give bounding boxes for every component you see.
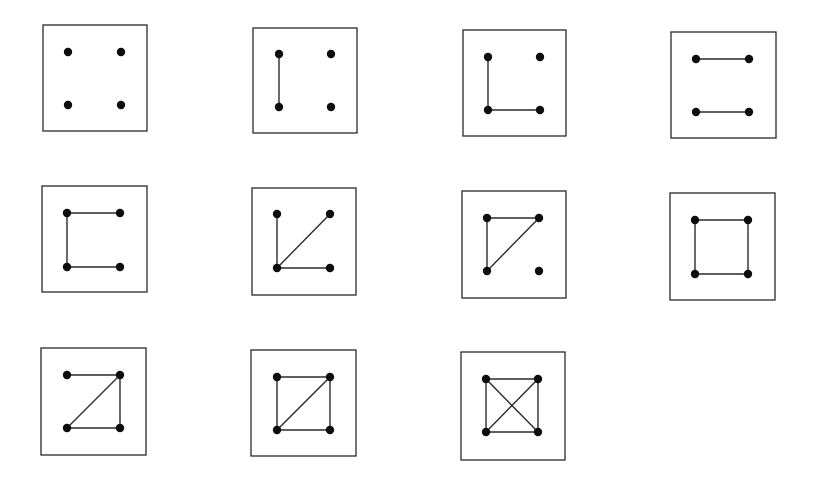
graph-vertex-bl <box>275 103 283 111</box>
graph-vertex-br <box>744 270 752 278</box>
graph-panel-6 <box>252 188 356 295</box>
graph-panel-10 <box>251 350 356 456</box>
graph-vertex-br <box>326 426 334 434</box>
graph-vertex-tl <box>484 53 492 61</box>
graph-vertex-bl <box>692 108 700 116</box>
graph-frame <box>253 28 357 133</box>
graph-vertex-tl <box>273 373 281 381</box>
graph-vertex-tl <box>273 210 281 218</box>
graph-vertex-br <box>116 263 124 271</box>
graph-vertex-br <box>117 101 125 109</box>
graph-vertex-bl <box>482 428 490 436</box>
graph-vertex-tr <box>326 373 334 381</box>
graph-vertex-tr <box>116 371 124 379</box>
graph-frame <box>670 193 775 300</box>
graph-enumeration-diagram <box>0 0 814 478</box>
graph-frame <box>671 32 776 138</box>
graph-vertex-tr <box>536 53 544 61</box>
graph-vertex-tl <box>482 375 490 383</box>
graph-vertex-tr <box>535 214 543 222</box>
graph-vertex-tl <box>691 216 699 224</box>
graph-vertex-tl <box>692 55 700 63</box>
graph-panel-1 <box>43 25 147 131</box>
graph-vertex-br <box>745 108 753 116</box>
graph-vertex-bl <box>691 270 699 278</box>
graph-frame <box>462 191 566 298</box>
graph-vertex-br <box>535 267 543 275</box>
graph-vertex-bl <box>273 264 281 272</box>
graph-frame <box>42 186 147 292</box>
graph-vertex-bl <box>63 263 71 271</box>
graph-vertex-br <box>327 103 335 111</box>
graph-vertex-tl <box>275 50 283 58</box>
graph-vertex-bl <box>63 424 71 432</box>
graph-panel-7 <box>462 191 566 298</box>
diagram-canvas <box>0 0 814 478</box>
graph-vertex-bl <box>484 106 492 114</box>
graph-frame <box>463 30 566 136</box>
graph-panel-9 <box>41 348 146 455</box>
graph-vertex-br <box>536 106 544 114</box>
graph-panel-8 <box>670 193 775 300</box>
graph-vertex-tr <box>745 55 753 63</box>
graph-panel-5 <box>42 186 147 292</box>
graph-vertex-bl <box>483 267 491 275</box>
graph-vertex-br <box>116 424 124 432</box>
graph-vertex-tr <box>326 210 334 218</box>
graph-vertex-bl <box>273 426 281 434</box>
graph-panel-2 <box>253 28 357 133</box>
graph-vertex-tr <box>116 209 124 217</box>
graph-vertex-br <box>326 264 334 272</box>
graph-vertex-tr <box>327 50 335 58</box>
graph-vertex-bl <box>64 101 72 109</box>
graph-vertex-tl <box>63 209 71 217</box>
graph-vertex-tl <box>64 48 72 56</box>
graph-frame <box>43 25 147 131</box>
graph-panel-4 <box>671 32 776 138</box>
graph-vertex-br <box>534 428 542 436</box>
graph-frame <box>252 188 356 295</box>
graph-vertex-tr <box>744 216 752 224</box>
graph-panel-3 <box>463 30 566 136</box>
graph-vertex-tr <box>534 375 542 383</box>
graph-vertex-tl <box>483 214 491 222</box>
graph-vertex-tr <box>117 48 125 56</box>
graph-panel-11 <box>461 352 565 460</box>
graph-vertex-tl <box>63 371 71 379</box>
